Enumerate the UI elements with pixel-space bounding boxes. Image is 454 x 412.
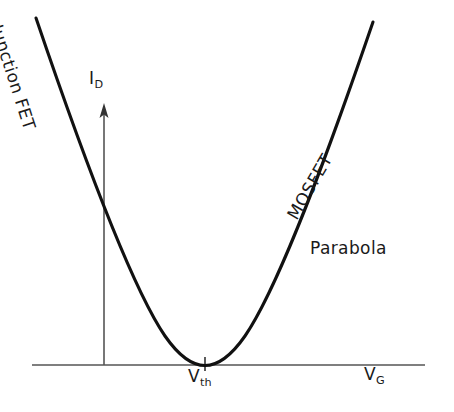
vth-label-subscript: th: [200, 376, 212, 389]
x-axis-label-main: V: [364, 364, 376, 384]
figure-canvas: ID VG Vth Junction FET MOSFET Parabola: [0, 0, 454, 412]
plot-svg: [0, 0, 454, 412]
parabola-curve: [36, 18, 373, 366]
y-axis-label: ID: [89, 68, 103, 91]
x-axis-label-subscript: G: [376, 374, 385, 387]
y-axis-label-subscript: D: [94, 78, 103, 91]
x-axis-label: VG: [364, 364, 385, 387]
vth-tick-label: Vth: [188, 366, 212, 389]
annotation-parabola: Parabola: [310, 238, 387, 258]
vth-label-main: V: [188, 366, 200, 386]
